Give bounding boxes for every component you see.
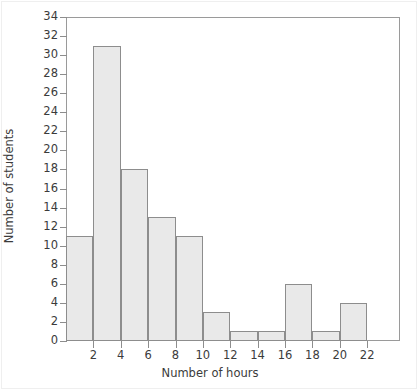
histogram-bar [148,217,175,341]
y-axis-tick [60,322,67,323]
histogram-bar [285,284,312,341]
y-axis-tick-label: 30 [2,49,58,61]
y-axis-tick-label: 6 [2,278,58,290]
y-axis-tick-label: 26 [2,87,58,99]
x-axis-tick-label: 22 [352,350,382,362]
histogram-bar [230,331,257,341]
x-axis-tick-label: 8 [161,350,191,362]
x-axis-tick [176,341,177,348]
y-axis-tick [60,189,67,190]
histogram-bar [258,331,285,341]
y-axis-tick [60,227,67,228]
x-axis-tick-label: 16 [270,350,300,362]
y-axis-tick-label: 34 [2,11,58,23]
histogram-bar [176,236,203,341]
x-axis-tick-label: 10 [188,350,218,362]
x-axis-tick [230,341,231,348]
x-axis-tick-label: 18 [297,350,327,362]
x-axis-tick-label: 12 [215,350,245,362]
x-axis-tick [312,341,313,348]
x-axis-tick-label: 14 [243,350,273,362]
y-axis-title: Number of students [2,106,16,266]
x-axis-tick [340,341,341,348]
y-axis-tick [60,265,67,266]
y-axis-tick [60,150,67,151]
y-axis-tick [60,303,67,304]
histogram-figure: 0246810121416182022242628303234 Number o… [0,0,420,391]
x-axis-tick-label: 20 [325,350,355,362]
y-axis-tick-label: 0 [2,335,58,347]
x-axis-tick [93,341,94,348]
plot-area [66,17,400,341]
y-axis-tick [60,246,67,247]
y-axis-tick-label: 28 [2,68,58,80]
histogram-bar [203,312,230,341]
y-axis-tick [60,17,67,18]
y-axis-tick [60,112,67,113]
y-axis-tick-label: 32 [2,30,58,42]
histogram-bar [121,169,148,341]
y-axis-tick [60,208,67,209]
x-axis-tick [258,341,259,348]
x-axis-tick-label: 2 [78,350,108,362]
y-axis-tick [60,74,67,75]
y-axis-tick [60,93,67,94]
x-axis-tick-label: 6 [133,350,163,362]
histogram-bar [93,46,120,341]
histogram-bar [340,303,367,341]
x-axis-tick-label: 4 [106,350,136,362]
x-axis-tick [285,341,286,348]
y-axis-tick [60,131,67,132]
y-axis-tick [60,36,67,37]
x-axis-title: Number of hours [0,366,420,380]
histogram-bar [66,236,93,341]
y-axis-tick-label: 2 [2,316,58,328]
x-axis-tick [121,341,122,348]
y-axis-tick [60,169,67,170]
y-axis-tick [60,341,67,342]
x-axis-tick [148,341,149,348]
x-axis-tick [203,341,204,348]
y-axis-tick [60,284,67,285]
y-axis-tick [60,55,67,56]
histogram-bar [312,331,339,341]
y-axis-tick-label: 4 [2,297,58,309]
x-axis-tick [367,341,368,348]
